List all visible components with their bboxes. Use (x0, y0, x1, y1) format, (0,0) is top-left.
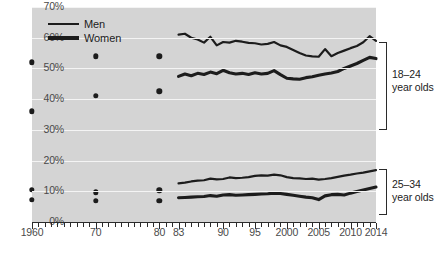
group-label-18-24-line2: year olds (392, 81, 434, 94)
x-tick (300, 223, 301, 227)
x-tick (64, 223, 65, 227)
group-label-25-34-line2: year olds (392, 191, 434, 204)
x-tick-label: 80 (154, 226, 165, 238)
x-tick (191, 223, 192, 227)
x-tick (140, 223, 141, 227)
x-tick (268, 223, 269, 227)
x-tick (51, 223, 52, 227)
x-tick (204, 223, 205, 227)
group-label-25-34: 25–34 year olds (392, 178, 434, 204)
legend: Men Women (48, 17, 121, 45)
x-tick-label: 90 (217, 226, 228, 238)
x-tick (121, 223, 122, 227)
legend-label-men: Men (84, 18, 105, 30)
y-tick-label: 30% (44, 123, 64, 135)
x-tick (185, 223, 186, 227)
bracket-25-34 (379, 169, 387, 215)
group-label-18-24-line1: 18–24 (392, 68, 434, 81)
x-tick (45, 223, 46, 227)
x-tick (229, 223, 230, 227)
legend-item-women: Women (48, 31, 121, 45)
y-tick-label: 20% (44, 154, 64, 166)
legend-swatch-women-icon (48, 36, 79, 40)
x-tick-label: 1960 (21, 226, 44, 238)
x-tick (83, 223, 84, 227)
y-tick-label: 10% (44, 184, 64, 196)
x-tick-label: 2000 (276, 226, 299, 238)
x-tick (210, 223, 211, 227)
x-tick (261, 223, 262, 227)
x-tick-label: 2014 (365, 226, 388, 238)
x-tick-label: 2005 (307, 226, 330, 238)
x-tick (102, 223, 103, 227)
x-tick (77, 223, 78, 227)
x-tick (57, 223, 58, 227)
x-tick-label: 95 (249, 226, 260, 238)
legend-swatch-men-icon (48, 23, 79, 26)
legend-label-women: Women (84, 32, 121, 44)
x-tick (128, 223, 129, 227)
x-tick (242, 223, 243, 227)
group-label-25-34-line1: 25–34 (392, 178, 434, 191)
x-tick (331, 223, 332, 227)
x-tick (115, 223, 116, 227)
legend-item-men: Men (48, 17, 121, 31)
chart-root: 0%10%20%30%40%50%60%70% 1960708083909520… (0, 0, 443, 257)
y-tick-label: 40% (44, 92, 64, 104)
bracket-18-24 (379, 42, 387, 130)
y-tick-label: 70% (44, 0, 64, 12)
x-tick-label: 70 (90, 226, 101, 238)
y-tick-label: 50% (44, 61, 64, 73)
x-tick (108, 223, 109, 227)
x-tick-label: 2010 (339, 226, 362, 238)
x-tick (147, 223, 148, 227)
x-tick (236, 223, 237, 227)
x-tick (198, 223, 199, 227)
x-tick-label: 83 (173, 226, 184, 238)
x-tick (70, 223, 71, 227)
x-tick (166, 223, 167, 227)
group-label-18-24: 18–24 year olds (392, 68, 434, 94)
x-tick (134, 223, 135, 227)
